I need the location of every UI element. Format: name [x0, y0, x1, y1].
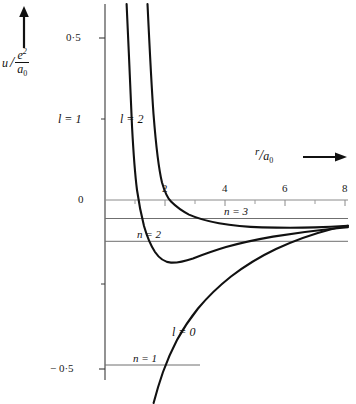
y-tick-label-neg0p5: − 0·5 — [50, 363, 74, 374]
curve-label-l1: l = 1 — [58, 113, 81, 125]
energy-level-label-n3: n = 3 — [224, 206, 248, 217]
curve-label-l0: l = 0 — [172, 326, 195, 338]
energy-level-label-n1: n = 1 — [133, 353, 157, 364]
x-axis-title: r/a0 — [255, 146, 273, 165]
x-tick-label-4: 4 — [222, 183, 228, 194]
x-tick-label-2: 2 — [162, 183, 168, 194]
curve-l1 — [127, 4, 348, 263]
curve-l0 — [154, 226, 348, 403]
x-tick-label-6: 6 — [282, 183, 288, 194]
y-tick-label-0p5: 0·5 — [66, 32, 81, 43]
y-axis-title-numerator: u — [2, 57, 9, 70]
y-axis-title: u/ e2 a0 — [2, 48, 66, 78]
x-axis-arrow-icon — [303, 152, 347, 162]
x-tick-label-8: 8 — [342, 183, 348, 194]
y-axis-title-denominator-top: e2 — [15, 48, 29, 63]
y-tick-label-0: 0 — [78, 194, 84, 205]
curve-l2 — [148, 4, 349, 228]
x-axis-title-denominator: a0 — [263, 149, 273, 163]
y-axis-arrow-icon — [18, 6, 30, 48]
y-axis-title-denominator-bottom: a0 — [15, 63, 29, 79]
effective-potential-figure: u/ e2 a0 r/a0 0·5 0 − 0·5 2 4 6 8 l = 1 … — [0, 0, 356, 404]
energy-level-label-n2: n = 2 — [137, 229, 161, 240]
curve-label-l2: l = 2 — [120, 113, 143, 125]
